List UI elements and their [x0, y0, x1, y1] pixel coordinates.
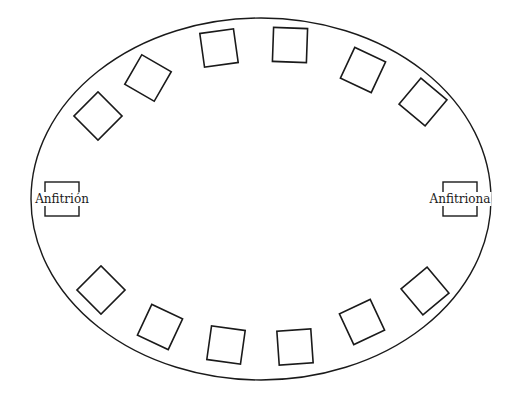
seat-10: [277, 329, 313, 365]
seat-1: [74, 92, 122, 140]
seat-12: [401, 267, 449, 315]
oval-table: [31, 18, 491, 380]
seat-5: [340, 47, 385, 92]
seats-group: [74, 27, 449, 365]
seat-7: [77, 266, 125, 314]
host-label-anfitrion: Anfitrión: [34, 192, 90, 206]
seat-3: [200, 29, 238, 67]
host-boxes-group: [45, 182, 477, 216]
seat-9: [207, 326, 245, 364]
host-label-anfitriona: Anfitriona: [429, 192, 492, 206]
seat-8: [137, 304, 182, 349]
seat-2: [125, 55, 171, 101]
seat-4: [272, 27, 307, 62]
seat-11: [339, 299, 384, 344]
